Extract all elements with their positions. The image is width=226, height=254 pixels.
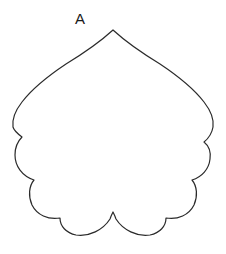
panel-label-a: A <box>75 10 85 27</box>
figure-background <box>0 0 226 254</box>
figure-panel: A <box>0 0 226 254</box>
leaf-outline-figure: A <box>0 0 226 254</box>
